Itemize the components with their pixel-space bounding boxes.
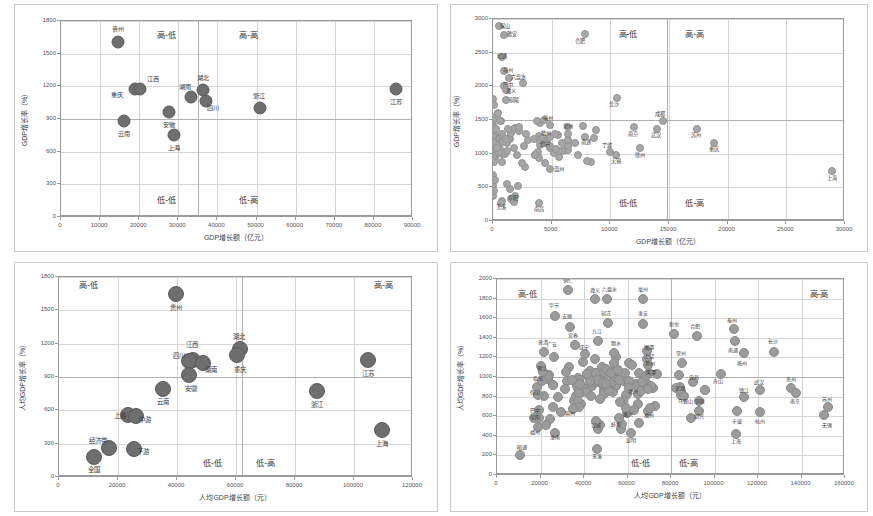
scatter-point (515, 450, 525, 460)
scatter-point (612, 151, 620, 159)
scatter-point (755, 385, 765, 395)
point-label: 无锡 (611, 160, 621, 165)
scatter-point (613, 365, 623, 375)
x-tick-label: 0 (58, 222, 61, 228)
x-tick-label: 80000 (662, 480, 679, 486)
point-label: 无锡 (822, 423, 832, 428)
point-label: 六盘水 (511, 75, 526, 80)
gridline-horizontal (61, 86, 411, 87)
scatter-point (602, 294, 612, 304)
y-tick-mark (57, 85, 60, 86)
point-label: 南京 (628, 133, 638, 138)
point-label: 贵州 (170, 304, 182, 310)
y-tick-label: 600 (44, 406, 54, 412)
point-label: 徐州 (635, 153, 645, 158)
plot-area-3: 高-低高-高低-低低-高贵州江西四川安徽湖南湖北重庆云南上游中游下游经济带全国浙… (58, 276, 412, 476)
x-axis-title: GDP增长额（亿元） (204, 232, 268, 242)
scatter-point (674, 370, 684, 380)
quadrant-label-low-low: 低-低 (203, 460, 222, 468)
gridline-vertical (802, 279, 803, 473)
x-tick-label: 40000 (575, 480, 592, 486)
point-label: 蚌埠 (611, 422, 621, 427)
x-tick-mark (256, 217, 257, 220)
y-tick-label: 300 (46, 180, 56, 186)
gridline-horizontal (493, 19, 843, 20)
x-tick-label: 20000 (130, 222, 147, 228)
gridline-horizontal (493, 53, 843, 54)
y-tick-mark (55, 443, 58, 444)
quadrant-divider-horizontal (61, 119, 411, 120)
scatter-point (389, 82, 402, 95)
x-tick-label: 90000 (404, 222, 421, 228)
scatter-point (86, 449, 102, 465)
y-tick-label: 900 (46, 115, 56, 121)
y-tick-label: 300 (44, 440, 54, 446)
point-label: 江西 (147, 76, 159, 82)
scatter-point (595, 394, 605, 404)
gridline-vertical (118, 277, 119, 475)
gridline-vertical (758, 279, 759, 473)
x-tick-label: 20000 (531, 480, 548, 486)
x-tick-label: 50000 (247, 222, 264, 228)
y-tick-label: 500 (478, 183, 488, 189)
point-label: 安徽 (163, 122, 175, 128)
point-label: 扬州 (737, 360, 747, 365)
y-tick-mark (493, 435, 496, 436)
point-label: 丽江 (537, 366, 547, 371)
x-tick-mark (60, 217, 61, 220)
x-tick-mark (492, 221, 493, 224)
scatter-point (550, 311, 560, 321)
scatter-point (515, 123, 523, 131)
scatter-point (692, 331, 702, 341)
y-tick-label: 1200 (41, 340, 54, 346)
quadrant-label-high-high: 高-高 (810, 291, 829, 299)
point-label: 温州 (554, 167, 564, 172)
y-tick-mark (493, 396, 496, 397)
quadrant-label-high-low: 高-低 (518, 291, 537, 299)
y-tick-label: 0 (53, 213, 56, 219)
x-tick-label: 20000 (109, 482, 126, 488)
x-tick-label: 60000 (227, 482, 244, 488)
x-tick-label: 10000 (91, 222, 108, 228)
point-label: 上海 (168, 145, 180, 151)
point-label: 长沙 (768, 338, 778, 343)
scatter-point (167, 129, 180, 142)
x-tick-label: 15000 (660, 226, 677, 232)
scatter-point (755, 407, 765, 417)
point-label: 合肥 (575, 39, 585, 44)
point-label: 昭通 (517, 445, 527, 450)
gridline-vertical (610, 19, 611, 219)
point-label: 重庆 (709, 148, 719, 153)
quadrant-label-low-low: 低-低 (631, 460, 650, 468)
gridline-vertical (217, 21, 218, 215)
gridline-vertical (236, 277, 237, 475)
scatter-point (558, 139, 566, 147)
point-label: 玉溪 (592, 453, 602, 458)
point-label: 保山 (500, 24, 510, 29)
x-tick-mark (412, 217, 413, 220)
point-label: 全国 (88, 467, 100, 473)
scatter-point (732, 406, 742, 416)
scatter-point (583, 157, 591, 165)
quadrant-label-low-low: 低-低 (157, 197, 176, 205)
point-label: 上饶 (644, 353, 654, 358)
scatter-point (181, 367, 197, 383)
point-label: 遵义 (590, 287, 600, 292)
scatter-point (498, 158, 506, 166)
y-tick-mark (55, 343, 58, 344)
point-label: 南京 (790, 399, 800, 404)
scatter-point (539, 347, 549, 357)
y-tick-label: 1000 (479, 373, 492, 379)
scatter-point (613, 94, 621, 102)
scatter-point (553, 392, 563, 402)
x-tick-mark (727, 221, 728, 224)
y-tick-mark (57, 20, 60, 21)
y-tick-mark (493, 317, 496, 318)
scatter-point (609, 348, 619, 358)
quadrant-label-high-high: 高-高 (374, 282, 393, 290)
scatter-point (791, 388, 801, 398)
point-label: 成都 (655, 113, 665, 118)
y-tick-label: 200 (482, 451, 492, 457)
x-tick-mark (177, 217, 178, 220)
point-label: 宿迁 (601, 310, 611, 315)
